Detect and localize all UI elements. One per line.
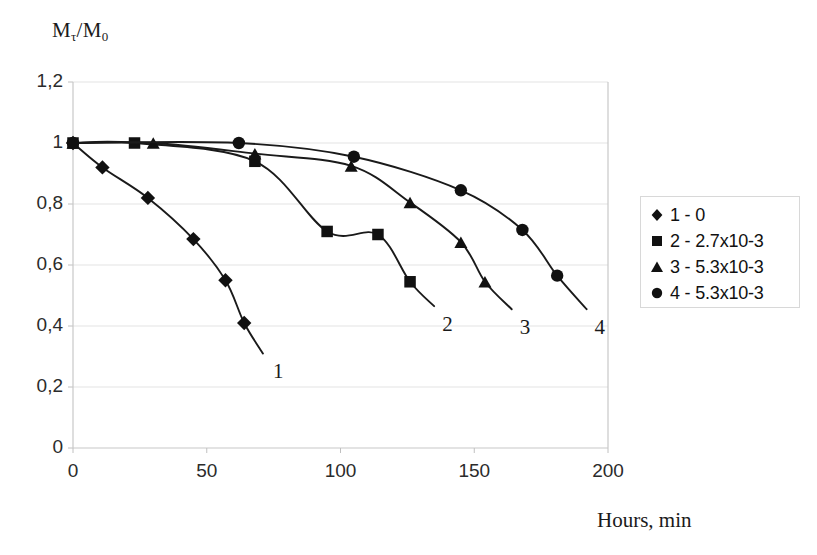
legend-marker-diamond-icon: [649, 207, 665, 223]
y-tick-label-4: 0,8: [11, 192, 63, 214]
legend-marker-triangle-icon: [649, 259, 665, 275]
curve-label-2: 2: [442, 312, 453, 337]
marker-circle: [551, 269, 563, 281]
curve-label-4: 4: [595, 315, 606, 340]
legend-label-1: 1 - 0: [670, 205, 705, 226]
curve-label-3: 3: [520, 315, 531, 340]
y-axis-label-mid: /M: [77, 18, 102, 42]
marker-circle: [67, 137, 79, 149]
marker-circle: [233, 137, 245, 149]
series-line-3: [73, 142, 512, 309]
legend-marker-square-icon: [649, 233, 665, 249]
marker-circle: [516, 224, 528, 236]
marker-diamond: [95, 160, 109, 174]
legend-marker-circle: [649, 285, 665, 301]
square-icon: [652, 236, 662, 246]
legend-item-1[interactable]: 1 - 0: [649, 202, 799, 228]
series-line-1: [73, 143, 263, 353]
legend-marker-circle-icon: [649, 285, 665, 301]
circle-icon: [652, 288, 662, 298]
y-axis-label-sub-tau: τ: [71, 29, 77, 44]
x-tick-label-3: 150: [444, 460, 504, 482]
legend-item-2[interactable]: 2 - 2.7x10-3: [649, 228, 799, 254]
y-tick-label-0: 0: [11, 436, 63, 458]
series-4: [67, 137, 587, 309]
series-1: [66, 136, 263, 354]
x-axis-label: Hours, min: [597, 508, 692, 533]
y-axis-label: Mτ/M0: [52, 18, 108, 43]
y-tick-label-3: 0,6: [11, 253, 63, 275]
legend-marker-diamond: [649, 207, 665, 223]
marker-triangle: [478, 276, 491, 288]
x-tick-label-0: 0: [43, 460, 103, 482]
y-axis-label-sub-zero: 0: [102, 29, 109, 44]
marker-circle: [348, 151, 360, 163]
y-tick-label-1: 0,2: [11, 375, 63, 397]
marker-square: [321, 226, 333, 238]
y-axis-label-main: M: [52, 18, 71, 42]
marker-square: [404, 276, 416, 288]
marker-square: [372, 229, 384, 241]
legend[interactable]: 1 - 02 - 2.7x10-33 - 5.3x10-34 - 5.3x10-…: [640, 196, 800, 308]
legend-label-2: 2 - 2.7x10-3: [670, 231, 764, 252]
legend-item-3[interactable]: 3 - 5.3x10-3: [649, 254, 799, 280]
chart-figure: Mτ/M0 Hours, min 00,20,40,60,811,2 05010…: [0, 0, 817, 555]
y-tick-label-5: 1: [11, 131, 63, 153]
curve-label-1: 1: [273, 359, 284, 384]
legend-marker-triangle: [649, 259, 665, 275]
legend-item-4[interactable]: 4 - 5.3x10-3: [649, 280, 799, 306]
x-tick-label-4: 200: [578, 460, 638, 482]
series-line-4: [73, 142, 587, 309]
series-3: [67, 137, 512, 309]
x-tick-label-1: 50: [177, 460, 237, 482]
triangle-icon: [651, 262, 663, 273]
marker-diamond: [237, 316, 251, 330]
marker-diamond: [218, 273, 232, 287]
legend-label-4: 4 - 5.3x10-3: [670, 283, 764, 304]
legend-marker-square: [649, 233, 665, 249]
x-tick-label-2: 100: [311, 460, 371, 482]
y-tick-label-6: 1,2: [11, 70, 63, 92]
legend-label-3: 3 - 5.3x10-3: [670, 257, 764, 278]
y-tick-label-2: 0,4: [11, 314, 63, 336]
diamond-icon: [652, 209, 663, 221]
marker-circle: [455, 184, 467, 196]
